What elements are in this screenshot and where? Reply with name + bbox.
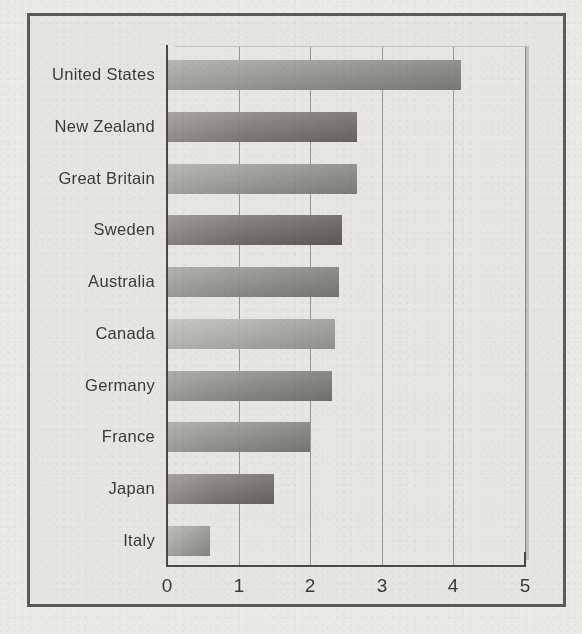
bar: [167, 164, 357, 194]
bar: [167, 422, 310, 452]
bar-category-label: New Zealand: [15, 117, 155, 136]
x-tick-label: 1: [224, 575, 254, 597]
x-tick-label: 3: [367, 575, 397, 597]
bar-category-label: Australia: [15, 272, 155, 291]
chart-page: United StatesNew ZealandGreat BritainSwe…: [0, 0, 582, 634]
x-tick-label: 2: [295, 575, 325, 597]
bar-category-label: Germany: [15, 376, 155, 395]
y-axis-line: [166, 45, 168, 567]
x-axis-end-tick: [524, 552, 526, 567]
bar-category-label: Japan: [15, 479, 155, 498]
gridline-4: [453, 47, 454, 565]
gridline-3: [382, 47, 383, 565]
bar: [167, 526, 210, 556]
x-axis-line: [166, 565, 526, 567]
x-tick-label: 0: [152, 575, 182, 597]
x-tick-label: 4: [438, 575, 468, 597]
bar: [167, 215, 342, 245]
bar: [167, 474, 274, 504]
bar: [167, 60, 461, 90]
bar-category-label: Canada: [15, 324, 155, 343]
bar-category-label: France: [15, 427, 155, 446]
bar: [167, 267, 339, 297]
bar-category-label: Italy: [15, 531, 155, 550]
gridline-5: [525, 47, 526, 565]
bar-category-label: Sweden: [15, 220, 155, 239]
x-tick-label: 5: [510, 575, 540, 597]
bar-category-label: Great Britain: [15, 169, 155, 188]
bar: [167, 319, 335, 349]
bar: [167, 371, 332, 401]
bar: [167, 112, 357, 142]
plot-area: United StatesNew ZealandGreat BritainSwe…: [0, 0, 582, 634]
bar-category-label: United States: [15, 65, 155, 84]
